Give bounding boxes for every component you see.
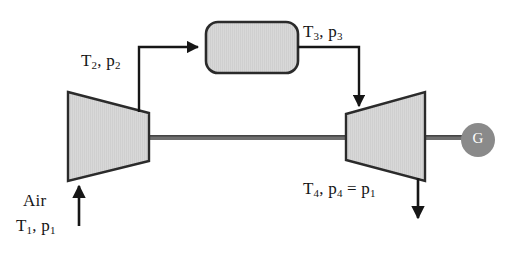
label-state-4: T4, p4 = p1: [303, 180, 376, 197]
label-state-4-T: T: [303, 179, 314, 198]
generator: [461, 123, 495, 157]
label-state-3-T-sub: 3: [314, 30, 320, 42]
schematic-canvas: [0, 0, 523, 255]
label-state-2-sep: ,: [97, 51, 106, 70]
combustor-to-turbine-pipe: [298, 47, 359, 106]
label-state-3-p: p: [328, 22, 337, 41]
label-state-4-p: p: [328, 179, 337, 198]
label-state-2-T-sub: 2: [92, 59, 98, 71]
label-state-4-sep: ,: [319, 179, 328, 198]
label-state-3-T: T: [303, 22, 314, 41]
label-state-4-T-sub: 4: [314, 187, 320, 199]
label-state-1-T: T: [16, 216, 27, 235]
label-state-1: T1, p1: [16, 217, 56, 234]
label-state-4-p1-sub: 1: [370, 187, 376, 199]
label-state-4-eq: =: [343, 179, 362, 198]
combustion-chamber: [206, 22, 298, 73]
label-air: Air: [23, 192, 46, 209]
label-state-2-p-sub: 2: [115, 59, 121, 71]
label-state-1-T-sub: 1: [27, 224, 33, 236]
label-state-1-p: p: [41, 216, 50, 235]
label-state-2: T2, p2: [81, 52, 121, 69]
label-state-2-p: p: [106, 51, 115, 70]
label-state-1-sep: ,: [32, 216, 41, 235]
label-state-4-p1: p: [361, 179, 370, 198]
compressor: [68, 92, 149, 181]
label-state-3-sep: ,: [319, 22, 328, 41]
compressor-to-combustor-pipe: [139, 47, 198, 112]
label-state-1-p-sub: 1: [50, 224, 56, 236]
label-state-3: T3, p3: [303, 23, 343, 40]
label-state-4-p-sub: 4: [337, 187, 343, 199]
label-state-2-T: T: [81, 51, 92, 70]
label-state-3-p-sub: 3: [337, 30, 343, 42]
gas-turbine-schematic: T2, p2 T3, p3 T4, p4 = p1 Air T1, p1 G: [0, 0, 523, 255]
